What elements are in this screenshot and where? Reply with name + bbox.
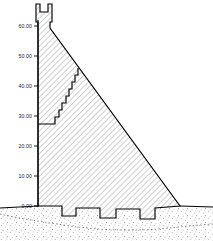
drawing-canvas: 60.00 50.00 40.00 30.00 20.00 10.00 0.00 (0, 0, 213, 241)
dam-body (36, 4, 180, 219)
dam-cross-section-figure: 60.00 50.00 40.00 30.00 20.00 10.00 0.00 (0, 0, 213, 241)
tick-label-10: 10.00 (19, 173, 32, 179)
axis-ticks (34, 26, 38, 206)
dam-body-outline (36, 4, 180, 219)
axis-tick-labels: 60.00 50.00 40.00 30.00 20.00 10.00 0.00 (19, 23, 32, 209)
tick-label-40: 40.00 (19, 83, 32, 89)
tick-label-0: 0.00 (22, 203, 33, 209)
tick-label-20: 20.00 (19, 143, 32, 149)
tick-label-30: 30.00 (19, 113, 32, 119)
tick-label-60: 60.00 (19, 23, 32, 29)
tick-label-50: 50.00 (19, 53, 32, 59)
